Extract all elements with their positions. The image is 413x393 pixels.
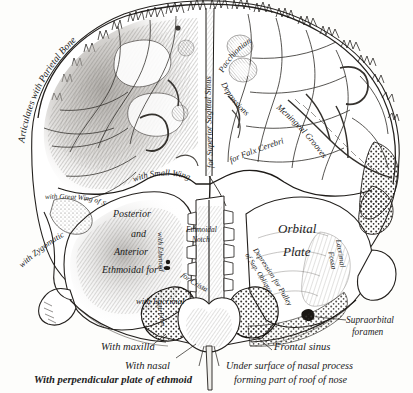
label-plate: Plate bbox=[283, 245, 310, 260]
label-orbital: Orbital bbox=[278, 222, 316, 237]
label-and: and bbox=[131, 228, 146, 239]
label-under-surface-2: forming part of roof of nose bbox=[234, 374, 347, 385]
label-supraorbital-foramen-2: foramen bbox=[352, 327, 383, 338]
label-supraorbital-foramen-1: Supraorbital bbox=[346, 315, 394, 326]
label-with-perpendicular-plate: With perpendicular plate of ethmoid bbox=[34, 374, 192, 386]
label-ethmoidal-foramina: Ethmoidal forª bbox=[102, 264, 161, 275]
label-anterior: Anterior bbox=[114, 246, 148, 257]
anatomical-plate-frontal-bone: Articulates with Parietal Bone Pacchioni… bbox=[0, 0, 413, 393]
label-with-maxilla: With maxilla bbox=[101, 341, 155, 353]
label-ethmoidal-notch-2: Notch bbox=[192, 236, 210, 244]
label-under-surface-1: Under surface of nasal process bbox=[226, 360, 353, 371]
label-ethmoidal-notch-1: Ethmoidal bbox=[186, 226, 217, 234]
ethmoidal-foramen-posterior bbox=[166, 260, 170, 264]
label-with-lacrimal-1: with Lacrimal bbox=[136, 297, 184, 307]
label-posterior: Posterior bbox=[113, 208, 151, 219]
label-frontal-sinus: Frontal sinus bbox=[274, 341, 330, 353]
label-with-nasal: With nasal bbox=[125, 360, 170, 372]
